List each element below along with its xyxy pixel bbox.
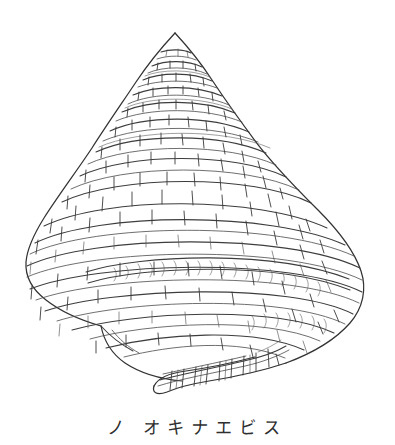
illustration-plate: .ln { fill:none; stroke:#3d3d3d; stroke-… [0,0,395,445]
body-whorl-spiral-bands [27,204,362,358]
selenizone-slit-band [86,258,350,296]
selenizone-crescents [114,261,320,296]
spire-spiral-cords [71,56,299,190]
figure-caption: ノ オキナエビス [0,408,395,445]
shell-body [26,33,364,394]
caption-text: ノ オキナエビス [107,413,288,440]
spire-whorl-sutures [62,50,311,203]
shell-illustration: .ln { fill:none; stroke:#3d3d3d; stroke-… [0,0,395,410]
shell-outline [26,33,364,394]
